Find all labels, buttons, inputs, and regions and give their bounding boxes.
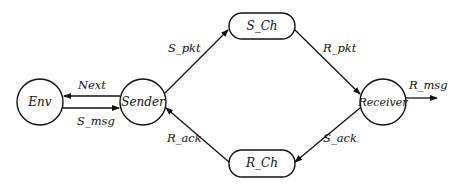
node-label-receiver: Receiver bbox=[358, 96, 409, 109]
edge-next: Next bbox=[64, 78, 120, 96]
node-label-s-ch: S_Ch bbox=[246, 19, 277, 33]
diagram-canvas: Next S_msg S_pkt R_pkt S_ack R_ack R_msg… bbox=[0, 0, 459, 194]
node-env: Env bbox=[17, 79, 63, 125]
node-label-sender: Sender bbox=[121, 95, 166, 109]
node-label-env: Env bbox=[27, 95, 51, 109]
edge-label-s-msg: S_msg bbox=[77, 114, 115, 128]
edge-label-s-pkt: S_pkt bbox=[168, 41, 201, 55]
edge-label-r-pkt: R_pkt bbox=[322, 41, 357, 55]
edge-r-msg: R_msg bbox=[406, 78, 448, 98]
node-r-ch: R_Ch bbox=[229, 150, 295, 177]
edge-s-pkt: S_pkt bbox=[165, 30, 228, 93]
edge-label-r-msg: R_msg bbox=[408, 78, 448, 92]
edge-s-msg: S_msg bbox=[63, 108, 119, 128]
edge-s-ack: S_ack bbox=[295, 108, 360, 162]
node-s-ch: S_Ch bbox=[229, 13, 295, 39]
node-receiver: Receiver bbox=[358, 79, 409, 125]
node-sender: Sender bbox=[120, 79, 166, 125]
edge-r-ack: R_ack bbox=[166, 108, 229, 162]
node-label-r-ch: R_Ch bbox=[245, 156, 278, 170]
edge-r-pkt: R_pkt bbox=[294, 29, 360, 94]
edge-label-r-ack: R_ack bbox=[166, 131, 202, 145]
edge-label-next: Next bbox=[77, 78, 106, 92]
edge-label-s-ack: S_ack bbox=[323, 131, 357, 145]
